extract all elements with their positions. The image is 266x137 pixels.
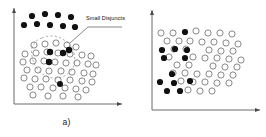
open-circle — [206, 47, 212, 53]
filled-circle — [34, 21, 40, 27]
filled-circle — [72, 24, 78, 30]
open-circle — [21, 75, 27, 81]
y-axis-arrow-icon — [12, 8, 16, 13]
small-disjuncts-leader-line — [70, 27, 122, 43]
open-circle — [38, 84, 44, 90]
open-circle — [205, 30, 211, 36]
open-circle — [85, 61, 91, 67]
x-axis-arrow-icon — [117, 102, 122, 106]
open-circle — [222, 64, 228, 70]
open-circle — [53, 40, 59, 46]
panel-a-filled-circles — [21, 11, 78, 87]
panel-a: Small Disjuncts a) — [0, 0, 133, 137]
open-circle — [186, 62, 192, 68]
filled-circle — [46, 59, 52, 65]
open-circle — [22, 51, 28, 57]
open-circle — [32, 76, 38, 82]
open-circle — [89, 79, 95, 85]
filled-circle — [159, 47, 165, 53]
open-circle — [73, 86, 79, 92]
filled-circle — [177, 88, 183, 94]
open-circle — [210, 63, 216, 69]
filled-circle — [47, 22, 53, 28]
filled-circle — [184, 47, 190, 53]
filled-circle — [161, 55, 167, 61]
open-circle — [230, 48, 236, 54]
filled-circle — [47, 49, 53, 55]
open-circle — [83, 87, 89, 93]
open-circle — [35, 67, 41, 73]
filled-circle — [57, 81, 63, 87]
open-circle — [217, 30, 223, 36]
open-circle — [45, 93, 51, 99]
open-circle — [197, 88, 203, 94]
open-circle — [234, 64, 240, 70]
filled-circle — [21, 22, 27, 28]
panel-a-axes — [12, 8, 122, 106]
filled-circle — [42, 11, 48, 17]
open-circle — [174, 62, 180, 68]
panel-a-caption: a) — [0, 117, 133, 127]
panel-a-open-circles — [20, 40, 99, 100]
open-circle — [206, 71, 212, 77]
open-circle — [75, 94, 81, 100]
open-circle — [52, 59, 58, 65]
open-circle — [187, 38, 193, 44]
filled-circle — [171, 80, 177, 86]
open-circle — [170, 30, 176, 36]
open-circle — [226, 56, 232, 62]
open-circle — [42, 41, 48, 47]
open-circle — [79, 78, 85, 84]
open-circle — [194, 71, 200, 77]
open-circle — [193, 28, 199, 34]
open-circle — [230, 72, 236, 78]
open-circle — [223, 40, 229, 46]
open-circle — [46, 68, 52, 74]
open-circle — [20, 59, 26, 65]
open-circle — [81, 70, 87, 76]
open-circle — [67, 77, 73, 83]
open-circle — [58, 68, 64, 74]
panel-b: b) — [133, 0, 266, 137]
leader-line-path — [70, 27, 122, 43]
open-circle — [93, 62, 99, 68]
open-circle — [27, 84, 33, 90]
open-circle — [63, 60, 69, 66]
open-circle — [90, 71, 96, 77]
open-circle — [88, 53, 94, 59]
x-axis-arrow-icon — [255, 108, 260, 112]
filled-circle — [182, 55, 188, 61]
y-axis-arrow-icon — [150, 10, 154, 15]
filled-circle — [29, 13, 35, 19]
figure-root: Small Disjuncts a) — [0, 0, 266, 137]
open-circle — [30, 92, 36, 98]
open-circle — [79, 52, 85, 58]
open-circle — [43, 76, 49, 82]
open-circle — [235, 41, 241, 47]
filled-circle — [172, 46, 178, 52]
open-circle — [226, 80, 232, 86]
open-circle — [176, 38, 182, 44]
open-circle — [185, 87, 191, 93]
filled-circle — [66, 47, 72, 53]
open-circle — [182, 70, 188, 76]
open-circle — [238, 57, 244, 63]
open-circle — [218, 48, 224, 54]
open-circle — [178, 78, 184, 84]
open-circle — [60, 93, 66, 99]
open-circle — [214, 80, 220, 86]
open-circle — [50, 85, 56, 91]
open-circle — [229, 31, 235, 37]
panel-b-plot — [133, 0, 266, 137]
open-circle — [214, 55, 220, 61]
filled-circle — [55, 12, 61, 18]
filled-circle — [182, 29, 188, 35]
open-circle — [202, 55, 208, 61]
open-circle — [211, 39, 217, 45]
open-circle — [73, 44, 79, 50]
open-circle — [199, 39, 205, 45]
filled-circle — [169, 71, 175, 77]
open-circle — [164, 38, 170, 44]
panel-b-open-circles — [158, 28, 244, 94]
open-circle — [218, 72, 224, 78]
